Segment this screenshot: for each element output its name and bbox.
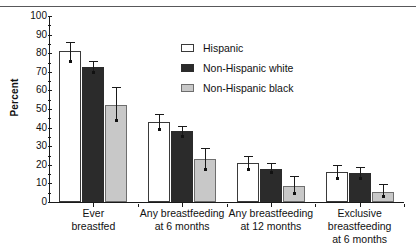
error-bar-cap-upper bbox=[290, 176, 299, 177]
y-tick-label-70: 70 bbox=[7, 67, 47, 77]
legend-item-non-hispanic-white: Non-Hispanic white bbox=[181, 60, 351, 76]
bar bbox=[82, 67, 104, 202]
y-tick-0 bbox=[48, 202, 52, 203]
x-axis-label-line: Exclusive breastfeeding bbox=[305, 207, 414, 233]
error-bar-cap-upper bbox=[201, 148, 210, 149]
error-bar bbox=[116, 87, 117, 120]
error-bar-cap-upper bbox=[89, 61, 98, 62]
error-bar-point-marker bbox=[115, 119, 118, 122]
error-bar-point-marker bbox=[359, 177, 362, 180]
top-divider-rule bbox=[0, 6, 416, 7]
chart-legend: Hispanic Non-Hispanic white Non-Hispanic… bbox=[181, 40, 351, 100]
x-axis-line bbox=[49, 202, 404, 203]
error-bar-cap-upper bbox=[333, 165, 342, 166]
error-bar-cap-upper bbox=[112, 87, 121, 88]
error-bar bbox=[294, 176, 295, 193]
bar-group bbox=[49, 16, 138, 202]
legend-label-non-hispanic-white: Non-Hispanic white bbox=[203, 63, 293, 74]
error-bar bbox=[205, 148, 206, 168]
error-bar-cap-upper bbox=[155, 114, 164, 115]
error-bar-point-marker bbox=[181, 135, 184, 138]
error-bar-point-marker bbox=[270, 171, 273, 174]
y-tick-label-80: 80 bbox=[7, 48, 47, 58]
y-tick-label-60: 60 bbox=[7, 85, 47, 95]
legend-swatch-icon-non-hispanic-black bbox=[181, 84, 194, 92]
error-bar-point-marker bbox=[69, 60, 72, 63]
bar bbox=[148, 122, 170, 202]
error-bar-point-marker bbox=[158, 128, 161, 131]
legend-label-hispanic: Hispanic bbox=[203, 43, 243, 54]
error-bar-cap-upper bbox=[356, 167, 365, 168]
y-tick-label-40: 40 bbox=[7, 123, 47, 133]
error-bar-point-marker bbox=[204, 168, 207, 171]
y-tick-label-50: 50 bbox=[7, 104, 47, 114]
bar bbox=[59, 51, 81, 202]
error-bar-point-marker bbox=[92, 71, 95, 74]
x-axis-label-line: at 6 months bbox=[305, 233, 414, 246]
y-tick-label-0: 0 bbox=[7, 197, 47, 207]
y-tick-label-90: 90 bbox=[7, 30, 47, 40]
legend-swatch-icon-non-hispanic-white bbox=[181, 64, 194, 72]
y-tick-label-10: 10 bbox=[7, 178, 47, 188]
legend-item-hispanic: Hispanic bbox=[181, 40, 351, 56]
legend-item-non-hispanic-black: Non-Hispanic black bbox=[181, 80, 351, 96]
bar bbox=[171, 131, 193, 202]
error-bar-point-marker bbox=[293, 192, 296, 195]
error-bar bbox=[70, 42, 71, 61]
error-bar-point-marker bbox=[382, 195, 385, 198]
y-tick-label-100: 100 bbox=[7, 11, 47, 21]
error-bar-cap-upper bbox=[66, 42, 75, 43]
y-tick-label-20: 20 bbox=[7, 160, 47, 170]
x-axis-labels: EverbreastfedAny breastfeedingat 6 month… bbox=[49, 207, 404, 241]
error-bar-cap-upper bbox=[267, 163, 276, 164]
legend-label-non-hispanic-black: Non-Hispanic black bbox=[203, 83, 293, 94]
error-bar-cap-upper bbox=[379, 184, 388, 185]
x-axis-label: Exclusive breastfeedingat 6 months bbox=[305, 207, 414, 246]
error-bar-point-marker bbox=[247, 168, 250, 171]
error-bar-point-marker bbox=[336, 177, 339, 180]
error-bar-cap-upper bbox=[178, 126, 187, 127]
legend-swatch-icon-hispanic bbox=[181, 44, 194, 52]
error-bar bbox=[159, 114, 160, 130]
error-bar-cap-upper bbox=[244, 156, 253, 157]
y-tick-label-30: 30 bbox=[7, 141, 47, 151]
